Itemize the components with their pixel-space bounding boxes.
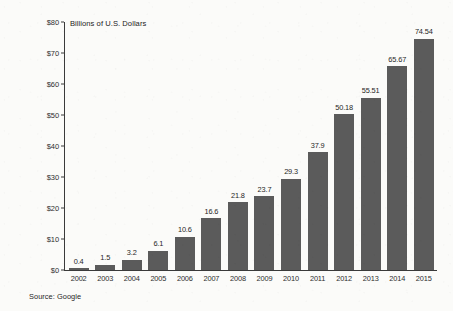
y-axis-tick-mark [61, 52, 64, 53]
bar[interactable]: 65.67 [387, 66, 407, 269]
bar[interactable]: 10.6 [175, 237, 195, 270]
x-axis-tick-label: 2012 [331, 274, 358, 283]
x-axis-tick-label: 2013 [357, 274, 384, 283]
y-axis-tick-label: $50 [47, 110, 59, 119]
bar-value-label: 6.1 [153, 239, 163, 248]
x-axis-tick-label: 2009 [251, 274, 278, 283]
bar-slot: 23.7 [251, 22, 278, 270]
bar[interactable]: 21.8 [228, 202, 248, 269]
bar[interactable]: 0.4 [69, 268, 89, 269]
x-axis-tick-label: 2006 [172, 274, 199, 283]
x-axis-tick-label: 2007 [198, 274, 225, 283]
x-axis-tick-label: 2008 [225, 274, 252, 283]
x-axis-tick-label: 2010 [278, 274, 305, 283]
bar-value-label: 23.7 [258, 185, 272, 194]
bar-value-label: 37.9 [311, 141, 325, 150]
bar-value-label: 50.18 [335, 103, 353, 112]
bar-slot: 16.6 [198, 22, 225, 270]
bar[interactable]: 1.5 [95, 265, 115, 270]
y-axis-tick-mark [61, 176, 64, 177]
x-axis-tick-label: 2003 [92, 274, 119, 283]
y-axis-tick-label: $10 [47, 234, 59, 243]
bar-slot: 10.6 [172, 22, 199, 270]
y-axis-tick-mark [61, 238, 64, 239]
chart-figure: Billions of U.S. Dollars $0$10$20$30$40$… [0, 0, 453, 311]
y-axis-tick-label: $40 [47, 141, 59, 150]
y-axis-tick-mark [61, 22, 64, 23]
y-axis-tick-mark [61, 114, 64, 115]
bar-value-label: 1.5 [100, 253, 110, 262]
bar-slot: 29.3 [278, 22, 305, 270]
bar-slot: 50.18 [331, 22, 358, 270]
x-axis-tick-group: 2002200320042005200620072008200920102011… [65, 274, 437, 283]
bar[interactable]: 6.1 [148, 251, 168, 270]
bar-slot: 1.5 [92, 22, 119, 270]
bar-slot: 21.8 [225, 22, 252, 270]
bar-value-label: 0.4 [74, 257, 84, 266]
x-axis-tick-label: 2004 [118, 274, 145, 283]
bar-slot: 0.4 [65, 22, 92, 270]
bar-value-label: 29.3 [284, 167, 298, 176]
bar[interactable]: 29.3 [281, 179, 301, 270]
bar[interactable]: 55.51 [361, 98, 381, 270]
bar-slot: 74.54 [411, 22, 438, 270]
bar[interactable]: 23.7 [254, 196, 274, 269]
x-axis-tick-label: 2015 [411, 274, 438, 283]
x-axis-tick-label: 2011 [304, 274, 331, 283]
y-axis-tick-label: $20 [47, 203, 59, 212]
bar-slot: 3.2 [118, 22, 145, 270]
bar-value-label: 74.54 [415, 27, 433, 36]
y-axis-tick-mark [61, 269, 64, 270]
bar-value-label: 16.6 [204, 207, 218, 216]
y-axis-tick-mark [61, 83, 64, 84]
bar-value-label: 55.51 [362, 86, 380, 95]
bar-value-label: 65.67 [388, 55, 406, 64]
y-axis-tick-mark [61, 207, 64, 208]
x-axis-line [64, 270, 437, 271]
bar-slot: 65.67 [384, 22, 411, 270]
axis-title: Billions of U.S. Dollars [70, 19, 146, 28]
bar-slot: 55.51 [357, 22, 384, 270]
bar[interactable]: 3.2 [122, 260, 142, 270]
x-axis-tick-label: 2002 [65, 274, 92, 283]
bar[interactable]: 37.9 [308, 152, 328, 269]
bar[interactable]: 16.6 [201, 218, 221, 269]
y-axis-tick-mark [61, 145, 64, 146]
y-axis-tick-label: $80 [47, 18, 59, 27]
bar[interactable]: 74.54 [414, 39, 434, 270]
bar-series: 0.41.53.26.110.616.621.823.729.337.950.1… [65, 22, 437, 270]
source-note: Source: Google [29, 292, 81, 301]
y-axis-tick-label: $0 [51, 265, 59, 274]
y-axis-tick-label: $30 [47, 172, 59, 181]
bar-slot: 6.1 [145, 22, 172, 270]
x-axis-tick-label: 2005 [145, 274, 172, 283]
bar-value-label: 10.6 [178, 225, 192, 234]
bar[interactable]: 50.18 [334, 114, 354, 269]
bar-value-label: 21.8 [231, 191, 245, 200]
y-axis-tick-label: $70 [47, 48, 59, 57]
y-axis-tick-label: $60 [47, 79, 59, 88]
plot-area: $0$10$20$30$40$50$60$70$80 0.41.53.26.11… [64, 22, 437, 271]
x-axis-tick-label: 2014 [384, 274, 411, 283]
bar-slot: 37.9 [304, 22, 331, 270]
bar-value-label: 3.2 [127, 248, 137, 257]
